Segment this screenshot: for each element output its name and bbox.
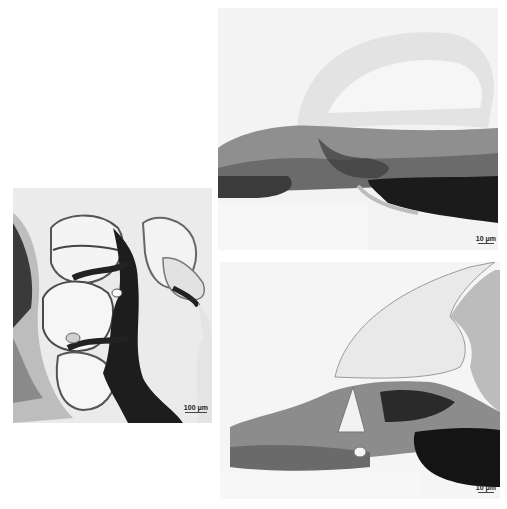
panel-top-right-organ-of-corti: 10 μm <box>218 8 498 250</box>
scale-bar-line <box>478 492 494 493</box>
organ-of-corti-image-top <box>218 8 498 250</box>
cochlea-section-image <box>13 188 212 423</box>
organ-of-corti-image-bottom <box>220 262 500 499</box>
scale-bar-top-right: 10 μm <box>476 235 496 244</box>
panel-bottom-right-organ-of-corti: 10 μm <box>220 262 500 499</box>
scale-bar-bottom-right: 10 μm <box>476 484 496 493</box>
scale-bar-line <box>478 243 494 244</box>
scale-bar-line <box>185 412 207 413</box>
scale-bar-label: 10 μm <box>476 484 496 491</box>
scale-bar-label: 10 μm <box>476 235 496 242</box>
scale-bar-left: 100 μm <box>184 404 208 413</box>
panel-left-cochlea: 100 μm <box>13 188 212 423</box>
scale-bar-label: 100 μm <box>184 404 208 411</box>
